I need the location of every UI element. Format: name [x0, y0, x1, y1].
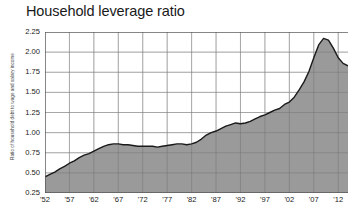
x-axis-tick: '67 — [113, 196, 123, 204]
y-axis-tick: 2.00 — [0, 48, 40, 56]
plot-area — [45, 32, 348, 193]
x-axis-tick: '77 — [162, 196, 172, 204]
x-axis-tick: '72 — [138, 196, 148, 204]
x-axis-tick: '02 — [284, 196, 294, 204]
y-axis-tick: 0.50 — [0, 169, 40, 177]
x-axis-tick: '57 — [64, 196, 74, 204]
y-axis-tick: 1.25 — [0, 109, 40, 117]
chart-container: Household leverage ratio Ratio of househ… — [0, 0, 353, 219]
area-chart-svg — [45, 32, 348, 193]
x-axis-tick: '52 — [40, 196, 50, 204]
y-axis-tick: 1.75 — [0, 68, 40, 76]
y-axis-tick: 1.50 — [0, 89, 40, 97]
x-axis-tick-labels: '52'57'62'67'72'77'82'87'92'97'02'07'12 — [45, 196, 348, 212]
x-axis-tick: '62 — [89, 196, 99, 204]
x-axis-tick: '82 — [187, 196, 197, 204]
y-axis-tick: 0.75 — [0, 149, 40, 157]
y-axis-tick: 0.25 — [0, 189, 40, 197]
y-axis-tick-labels: 0.250.500.751.001.251.501.752.002.25 — [0, 32, 42, 193]
x-axis-tick: '97 — [260, 196, 270, 204]
page-title: Household leverage ratio — [26, 3, 185, 19]
x-axis-tick: '92 — [236, 196, 246, 204]
y-axis-tick: 1.00 — [0, 129, 40, 137]
y-axis-tick: 2.25 — [0, 28, 40, 36]
series-area-fill — [45, 38, 348, 193]
x-axis-tick: '12 — [333, 196, 343, 204]
x-axis-tick: '07 — [309, 196, 319, 204]
x-axis-tick: '87 — [211, 196, 221, 204]
